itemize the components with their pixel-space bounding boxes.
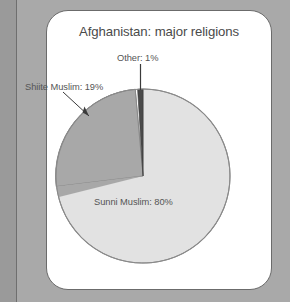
chart-title: Afghanistan: major religions bbox=[48, 24, 270, 39]
pie-label-sunni: Sunni Muslim: 80% bbox=[94, 197, 173, 207]
pie-chart: Afghanistan: major religions Other: 1% S… bbox=[0, 0, 290, 302]
pie-label-other: Other: 1% bbox=[117, 53, 158, 63]
pie-chart-svg bbox=[0, 0, 290, 302]
pie-slice-shiite[interactable] bbox=[56, 89, 143, 186]
pie-label-shiite: Shiite Muslim: 19% bbox=[25, 82, 103, 92]
page-root: Afghanistan: major religions Other: 1% S… bbox=[0, 0, 290, 302]
